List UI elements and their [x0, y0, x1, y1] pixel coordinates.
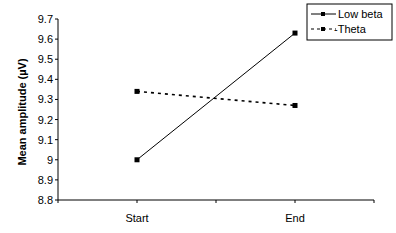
legend: Low beta -Theta [307, 4, 392, 40]
line-chart: 8.88.999.19.29.39.49.59.69.7 StartEnd Me… [0, 0, 396, 233]
y-tick-label: 9.1 [38, 134, 53, 146]
y-tick-label: 9.2 [38, 114, 53, 126]
legend-low-beta: Low beta [338, 8, 384, 20]
y-tick-label: 9 [47, 154, 53, 166]
x-tick-label: End [285, 212, 305, 224]
x-axis: StartEnd [58, 200, 374, 224]
y-tick-label: 8.9 [38, 174, 53, 186]
legend-theta: -Theta [334, 23, 367, 35]
x-tick-label: Start [125, 212, 148, 224]
y-tick-label: 9.6 [38, 33, 53, 45]
y-tick-label: 9.5 [38, 53, 53, 65]
y-tick-label: 9.7 [38, 13, 53, 25]
chart-series [135, 31, 298, 163]
y-tick-label: 9.3 [38, 93, 53, 105]
y-axis-label: Mean amplitude (µV) [16, 58, 28, 166]
y-tick-label: 9.4 [38, 73, 53, 85]
y-axis: 8.88.999.19.29.39.49.59.69.7 [38, 13, 58, 206]
y-tick-label: 8.8 [38, 194, 53, 206]
